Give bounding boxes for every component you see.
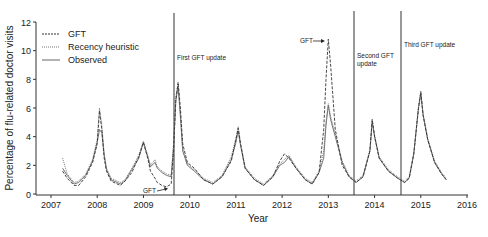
update-lines: First GFT update Second GFT update Third… — [174, 11, 456, 195]
x-tick-label: 2015 — [411, 200, 431, 210]
observed-line — [63, 87, 447, 186]
series-group — [63, 39, 447, 187]
recency-line — [63, 84, 447, 184]
arrow-icon — [321, 39, 325, 43]
arrow-icon — [164, 187, 168, 191]
legend-gft-label: GFT — [68, 29, 86, 39]
second-update-label-1: Second GFT — [357, 52, 394, 59]
x-tick-label: 2016 — [457, 200, 477, 210]
gft-line — [63, 39, 447, 187]
y-tick-label: 12 — [21, 18, 31, 28]
x-tick-label: 2008 — [87, 200, 107, 210]
y-tick-label: 10 — [21, 46, 31, 56]
gft-annotation-2013: GFT — [300, 37, 325, 44]
y-axis-label: Percentage of flu-related doctor visits — [4, 25, 15, 190]
legend-recency-label: Recency heuristic — [68, 42, 140, 52]
x-tick-label: 2007 — [41, 200, 61, 210]
y-tick-label: 4 — [26, 132, 31, 142]
flu-chart: 024681012 200720082009201020112012201320… — [0, 0, 488, 237]
x-tick-label: 2011 — [226, 200, 245, 210]
second-update-label-2: update — [357, 60, 377, 68]
x-axis: 2007200820092010201120122013201420152016 — [36, 195, 477, 210]
y-tick-label: 8 — [26, 75, 31, 85]
first-update-label: First GFT update — [177, 54, 226, 62]
x-tick-label: 2012 — [272, 200, 292, 210]
gft-annotation-2009: GFT — [143, 187, 168, 194]
legend-observed-label: Observed — [68, 55, 107, 65]
y-tick-label: 6 — [26, 104, 31, 114]
y-tick-label: 2 — [26, 161, 31, 171]
svg-text:GFT: GFT — [143, 187, 156, 194]
x-tick-label: 2014 — [365, 200, 385, 210]
y-axis: 024681012 — [21, 18, 36, 200]
svg-text:GFT: GFT — [300, 37, 313, 44]
y-tick-label: 0 — [26, 190, 31, 200]
x-tick-label: 2010 — [180, 200, 200, 210]
third-update-label: Third GFT update — [404, 41, 456, 49]
legend: GFT Recency heuristic Observed — [42, 29, 140, 65]
x-tick-label: 2013 — [318, 200, 338, 210]
x-tick-label: 2009 — [133, 200, 153, 210]
x-axis-label: Year — [248, 213, 269, 224]
